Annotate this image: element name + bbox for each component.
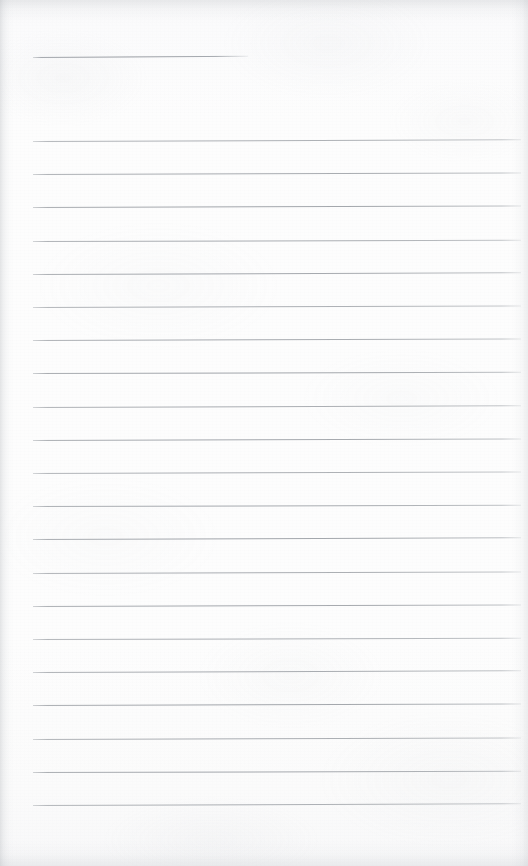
- paper-background: [0, 0, 528, 866]
- scanned-page: [0, 0, 528, 866]
